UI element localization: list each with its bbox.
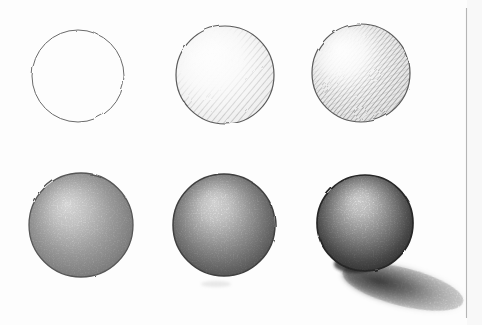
sketch-page	[0, 0, 482, 325]
smudge-mark	[201, 281, 231, 287]
sphere-step-3-dense-hatch	[312, 24, 410, 122]
sphere-step-5-strong-tone	[173, 174, 275, 276]
sphere-tutorial-drawing	[0, 0, 482, 325]
sphere-step-2-light-hatch	[176, 26, 274, 124]
page-margin-strip	[467, 0, 482, 325]
sphere-step-4-soft-tone	[29, 173, 133, 277]
